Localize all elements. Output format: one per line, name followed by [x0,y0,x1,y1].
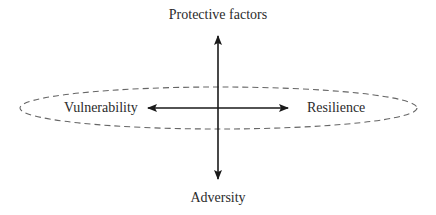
resilience-diagram: Protective factors Adversity Vulnerabili… [0,0,436,215]
label-protective-factors: Protective factors [0,7,436,23]
label-resilience: Resilience [307,100,365,116]
label-vulnerability: Vulnerability [64,100,138,116]
label-adversity: Adversity [0,190,436,206]
